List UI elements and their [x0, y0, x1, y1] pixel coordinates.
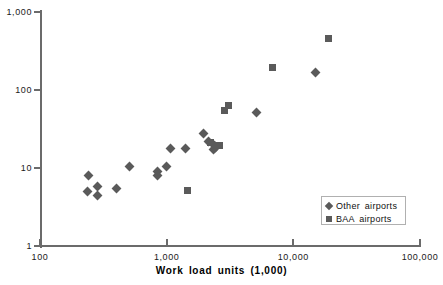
y-tick-mark: [34, 167, 42, 169]
x-tick-mark: [292, 239, 294, 247]
x-tick-label: 100: [0, 252, 80, 262]
data-point-baa: [184, 187, 191, 194]
data-point-baa: [269, 64, 276, 71]
x-tick-mark: [39, 239, 41, 247]
data-point-other: [93, 191, 103, 201]
diamond-marker-icon: [325, 201, 333, 209]
y-tick-label: 1,000: [0, 7, 32, 17]
y-tick-label: 1: [0, 241, 32, 251]
y-tick-mark: [34, 11, 42, 13]
data-point-baa: [216, 142, 223, 149]
x-tick-mark: [419, 239, 421, 247]
x-tick-mark: [166, 239, 168, 247]
data-point-other: [251, 107, 261, 117]
data-point-other: [111, 183, 121, 193]
legend-entry-label: BAA airports: [336, 214, 392, 224]
scatter-chart: 1101001,000 1001,00010,000100,000 Work l…: [0, 0, 443, 285]
x-tick-label: 10,000: [253, 252, 333, 262]
data-point-baa: [225, 102, 232, 109]
data-point-other: [83, 170, 93, 180]
legend-entry-baa-airports: BAA airports: [326, 212, 402, 225]
data-point-other: [162, 161, 172, 171]
data-point-baa: [325, 35, 332, 42]
x-axis-title: Work load units (1,000): [0, 265, 443, 276]
square-marker-icon: [326, 216, 332, 222]
data-point-baa: [207, 139, 214, 146]
legend-entry-other-airports: Other airports: [326, 199, 402, 212]
data-point-other: [125, 161, 135, 171]
y-tick-label: 100: [0, 85, 32, 95]
x-tick-label: 1,000: [127, 252, 207, 262]
x-tick-label: 100,000: [380, 252, 443, 262]
x-axis-line: [40, 245, 421, 247]
legend-entry-label: Other airports: [336, 201, 397, 211]
data-point-other: [165, 143, 175, 153]
y-axis-line: [40, 10, 42, 248]
data-point-other: [181, 143, 191, 153]
y-tick-label: 10: [0, 163, 32, 173]
chart-legend: Other airports BAA airports: [321, 196, 406, 225]
y-tick-mark: [34, 89, 42, 91]
data-point-other: [311, 67, 321, 77]
